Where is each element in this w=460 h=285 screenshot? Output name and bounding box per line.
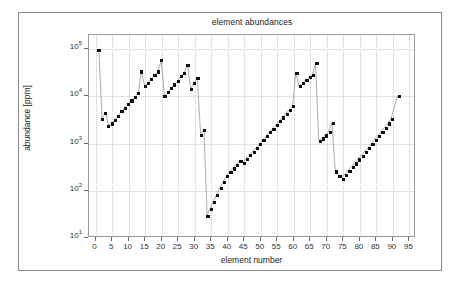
data-point [378,135,381,138]
x-tick-mark [111,237,112,241]
data-point [210,208,213,211]
data-point [342,178,345,181]
data-point [160,59,163,62]
data-point [153,74,156,77]
y-tick-label: 105 [48,42,82,51]
data-point [180,75,183,78]
x-tick-mark [95,237,96,241]
x-tick-mark [392,237,393,241]
y-tick-exponent: 1 [79,229,82,235]
y-tick-exponent: 2 [79,182,82,188]
data-point [391,118,394,121]
x-axis-label: element number [88,255,415,265]
data-point [101,118,104,121]
data-point [173,83,176,86]
y-tick-mantissa: 10 [70,89,79,98]
data-point [332,122,335,125]
x-tick-mark [359,237,360,241]
data-point [262,139,265,142]
data-point [282,116,285,119]
data-point [375,139,378,142]
y-tick-label: 102 [48,184,82,193]
data-point [233,167,236,170]
data-point [329,131,332,134]
data-point [322,137,325,140]
x-tick-mark [161,237,162,241]
x-tick-label: 95 [396,242,420,251]
y-tick-label: 101 [48,231,82,240]
data-point [286,113,289,116]
data-point [104,112,107,115]
data-point [259,143,262,146]
data-point [114,119,117,122]
x-tick-mark [260,237,261,241]
data-point [365,151,368,154]
y-tick-mantissa: 10 [70,42,79,51]
data-point [177,80,180,83]
data-point [127,103,130,106]
data-point [170,87,173,90]
data-point [371,143,374,146]
x-tick-mark [326,237,327,241]
data-point [157,70,160,73]
data-point [183,72,186,75]
y-tick-label: 104 [48,89,82,98]
data-point [220,187,223,190]
x-tick-mark [194,237,195,241]
data-point [130,99,133,102]
data-point [269,131,272,134]
x-tick-mark [177,237,178,241]
data-point [345,174,348,177]
y-tick-mantissa: 10 [70,137,79,146]
data-point [117,115,120,118]
y-tick-mantissa: 10 [70,231,79,240]
data-point [190,88,193,91]
data-point [140,70,143,73]
x-tick-mark [144,237,145,241]
y-tick-label: 103 [48,137,82,146]
data-point [124,107,127,110]
x-axis-tick-labels: 05101520253035404550556065707580859095 [88,242,415,254]
x-tick-mark [342,237,343,241]
x-tick-mark [128,237,129,241]
x-tick-mark [375,237,376,241]
data-point [388,122,391,125]
data-point [295,72,298,75]
data-point [150,78,153,81]
data-point [144,85,147,88]
data-point [223,181,226,184]
x-tick-mark [227,237,228,241]
data-point [355,162,358,165]
data-point [272,128,275,131]
data-point [368,147,371,150]
data-point [398,95,401,98]
data-point [362,155,365,158]
x-tick-mark [293,237,294,241]
x-tick-mark [243,237,244,241]
data-point [348,170,351,173]
series-polyline [99,50,398,215]
data-point [111,122,114,125]
y-axis-tick-labels: 101102103104105 [44,34,82,237]
data-point [266,135,269,138]
data-point [352,166,355,169]
plot-area [88,34,415,237]
x-tick-mark [408,237,409,241]
x-tick-mark [276,237,277,241]
data-point [246,158,249,161]
y-tick-exponent: 3 [79,135,82,141]
data-point [203,129,206,132]
x-tick-mark [210,237,211,241]
data-point [196,77,199,80]
y-tick-mantissa: 10 [70,184,79,193]
data-point [315,62,318,65]
y-tick-exponent: 4 [79,88,82,94]
data-point [120,110,123,113]
data-point [229,171,232,174]
data-point [279,120,282,123]
chart-figure: element abundances abundance [ppm] 10110… [0,0,460,285]
x-tick-mark [309,237,310,241]
data-point [302,82,305,85]
data-point [134,96,137,99]
chart-title: element abundances [88,17,416,27]
